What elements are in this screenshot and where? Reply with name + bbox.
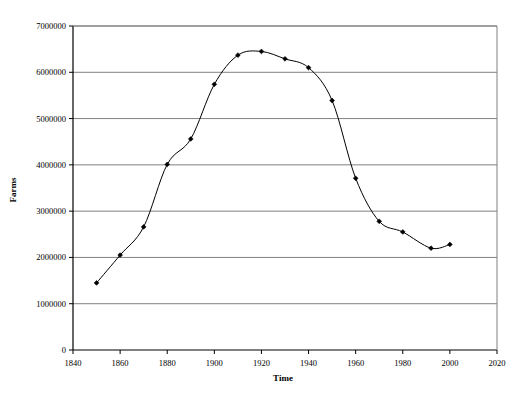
data-point-marker <box>212 82 217 87</box>
data-point-marker <box>165 162 170 167</box>
x-tick-label: 2020 <box>489 358 506 368</box>
x-tick-label: 1940 <box>300 358 317 368</box>
x-axis-title: Time <box>273 373 293 383</box>
x-tick-label: 1880 <box>159 358 176 368</box>
data-point-marker <box>188 137 193 142</box>
x-tick-label: 1960 <box>347 358 364 368</box>
y-tick-label: 3000000 <box>36 206 66 216</box>
chart-figure: 1840186018801900192019401960198020002020… <box>0 0 529 396</box>
x-tick-label: 1840 <box>65 358 82 368</box>
y-tick-label: 7000000 <box>36 21 66 31</box>
data-point-marker <box>141 224 146 229</box>
axis-lines-group <box>73 26 497 350</box>
y-tick-label: 6000000 <box>36 67 66 77</box>
data-point-marker <box>353 176 358 181</box>
data-point-marker <box>447 242 452 247</box>
y-tick-label: 5000000 <box>36 114 66 124</box>
y-axis-title: Farms <box>8 177 18 202</box>
y-tick-labels-group: 0100000020000003000000400000050000006000… <box>36 21 66 355</box>
data-point-marker <box>283 56 288 61</box>
data-point-marker <box>259 49 264 54</box>
x-tick-label: 2000 <box>441 358 458 368</box>
data-series-line <box>97 51 450 283</box>
data-point-marker <box>429 246 434 251</box>
y-tick-label: 0 <box>62 345 66 355</box>
data-point-marker <box>330 98 335 103</box>
y-tick-label: 2000000 <box>36 252 66 262</box>
data-point-markers-group <box>94 49 452 285</box>
x-tick-labels-group: 1840186018801900192019401960198020002020 <box>65 358 506 368</box>
x-tick-label: 1920 <box>253 358 270 368</box>
x-tick-label: 1860 <box>112 358 129 368</box>
line-chart: 1840186018801900192019401960198020002020… <box>0 0 529 396</box>
x-tick-label: 1900 <box>206 358 223 368</box>
y-tick-label: 1000000 <box>36 299 66 309</box>
x-tick-label: 1980 <box>394 358 411 368</box>
gridlines-group <box>73 26 497 304</box>
data-point-marker <box>400 230 405 235</box>
y-tick-label: 4000000 <box>36 160 66 170</box>
